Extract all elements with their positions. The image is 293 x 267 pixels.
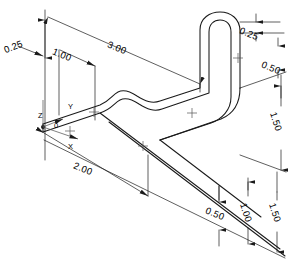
dim-line-bottom-2000 bbox=[44, 133, 148, 196]
axis-label-x: X bbox=[68, 135, 73, 153]
center-mark-bend-4 bbox=[233, 53, 243, 63]
axis-label-z: Z bbox=[38, 104, 43, 122]
tube-outline-lower bbox=[43, 20, 231, 140]
tube-lower-run bbox=[100, 113, 285, 256]
engineering-drawing-canvas: 0.25 1.00 3.00 2.00 0.25 0.50 1.50 0.50 … bbox=[0, 0, 293, 267]
axis-label-origin: 0 bbox=[54, 114, 58, 132]
axis-label-y: Y bbox=[68, 95, 73, 113]
center-mark-bend-2 bbox=[187, 108, 197, 118]
